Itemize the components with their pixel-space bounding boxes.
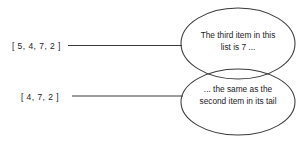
bottom-bubble-text: ... the same as the second item in its t… <box>182 84 294 107</box>
top-bubble-line-1: The third item in this <box>182 30 294 42</box>
diagram-vector-layer <box>0 0 307 143</box>
top-bubble-text: The third item in this list is 7 ... <box>182 30 294 53</box>
diagram-canvas: [ 5, 4, 7, 2 ] [ 4, 7, 2 ] The third ite… <box>0 0 307 143</box>
list-label-source: [ 5, 4, 7, 2 ] <box>12 41 61 51</box>
top-bubble-line-2: list is 7 ... <box>182 42 294 54</box>
list-label-tail: [ 4, 7, 2 ] <box>21 92 59 102</box>
bottom-bubble-line-1: ... the same as the <box>182 84 294 96</box>
bottom-bubble-line-2: second item in its tail <box>182 96 294 108</box>
